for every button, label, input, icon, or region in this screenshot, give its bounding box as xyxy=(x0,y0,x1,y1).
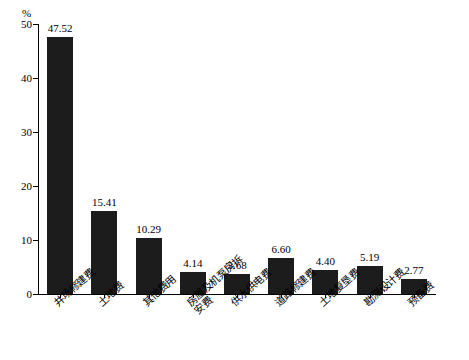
y-axis-tick-mark xyxy=(33,294,38,295)
x-axis-tick-mark xyxy=(104,294,105,298)
bar-value-label: 10.29 xyxy=(127,224,171,235)
bar-value-label: 47.52 xyxy=(38,23,82,34)
x-axis-tick-mark xyxy=(237,294,238,298)
x-axis-tick-mark xyxy=(325,294,326,298)
x-axis-tick-mark xyxy=(414,294,415,298)
bar-chart: % 01020304050 47.5215.4110.294.143.686.6… xyxy=(0,0,469,360)
bar-value-label: 5.19 xyxy=(348,252,392,263)
y-axis-tick-label: 30 xyxy=(4,126,32,138)
y-axis-tick-label: 0 xyxy=(4,288,32,300)
y-axis-tick-label: 50 xyxy=(4,18,32,30)
x-axis-tick-mark xyxy=(60,294,61,298)
x-axis-tick-mark xyxy=(193,294,194,298)
y-axis-tick-label: 10 xyxy=(4,234,32,246)
y-axis-tick-label: 40 xyxy=(4,72,32,84)
bar-value-label: 4.14 xyxy=(171,258,215,269)
bar-value-label: 15.41 xyxy=(82,197,126,208)
bar xyxy=(47,37,73,294)
x-axis-tick-mark xyxy=(281,294,282,298)
x-axis-tick-mark xyxy=(149,294,150,298)
x-axis-tick-mark xyxy=(370,294,371,298)
y-axis-tick-label: 20 xyxy=(4,180,32,192)
bar xyxy=(91,211,117,294)
bar-value-label: 6.60 xyxy=(259,244,303,255)
